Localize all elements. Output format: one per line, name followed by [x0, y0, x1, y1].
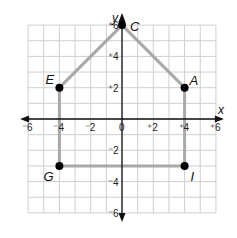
- x-tick-label: ⁺6: [210, 122, 221, 133]
- points: ACEGI: [43, 19, 198, 184]
- y-tick-label: ⁺6: [108, 20, 119, 31]
- point-e: [55, 84, 63, 92]
- y-axis-arrow-down-icon: [119, 213, 126, 222]
- x-axis-label: x: [217, 103, 225, 117]
- point-label-c: C: [130, 19, 140, 34]
- y-tick-label: ⁺2: [108, 83, 119, 94]
- point-i: [181, 162, 189, 170]
- coordinate-plane: x y ⁻6⁻4⁻20⁺2⁺4⁺6⁺6⁺4⁺2⁻2⁻4⁻6 ACEGI: [0, 0, 237, 238]
- point-label-g: G: [43, 169, 53, 184]
- y-tick-label: ⁺4: [108, 51, 119, 62]
- y-tick-label: ⁻2: [108, 145, 119, 156]
- point-a: [181, 84, 189, 92]
- x-tick-label: ⁺4: [179, 122, 190, 133]
- axes: x y: [20, 11, 225, 222]
- x-tick-label: 0: [119, 122, 125, 133]
- y-tick-label: ⁻6: [108, 208, 119, 219]
- point-label-a: A: [189, 73, 199, 88]
- point-c: [118, 21, 126, 29]
- x-tick-label: ⁻2: [85, 122, 96, 133]
- x-tick-label: ⁻6: [22, 122, 33, 133]
- point-g: [55, 162, 63, 170]
- point-label-i: I: [191, 169, 195, 184]
- y-axis-arrow-up-icon: [119, 13, 126, 22]
- point-label-e: E: [45, 72, 54, 87]
- x-tick-label: ⁻4: [53, 122, 64, 133]
- x-tick-label: ⁺2: [147, 122, 158, 133]
- y-tick-label: ⁻4: [108, 177, 119, 188]
